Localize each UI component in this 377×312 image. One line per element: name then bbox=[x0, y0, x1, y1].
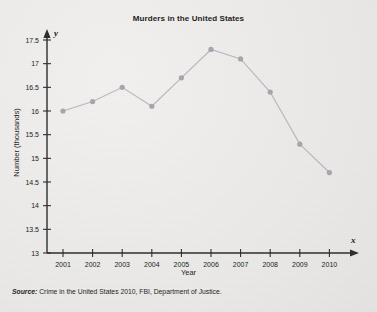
y-axis-tick-label: 15 bbox=[31, 155, 39, 162]
x-axis-tick-label: 2007 bbox=[233, 261, 249, 268]
data-point bbox=[90, 99, 95, 104]
line-chart-plot: y x 1313.51414.51515.51616.51717.5 20012… bbox=[0, 0, 377, 312]
y-axis-tick-label: 13.5 bbox=[25, 226, 39, 233]
data-point bbox=[268, 89, 273, 94]
y-axis-tick-label: 14.5 bbox=[25, 179, 39, 186]
x-axis-tick-labels: 2001200220032004200520062007200820092010 bbox=[55, 261, 337, 268]
x-axis-tick-label: 2009 bbox=[292, 261, 308, 268]
x-axis-tick-label: 2003 bbox=[114, 261, 130, 268]
y-axis-tick-label: 17 bbox=[31, 60, 39, 67]
y-axis-tick-label: 13 bbox=[31, 250, 39, 257]
source-note: Source: Crime in the United States 2010,… bbox=[12, 288, 222, 295]
x-axis-variable-label: x bbox=[350, 235, 356, 245]
source-text: Crime in the United States 2010, FBI, De… bbox=[39, 288, 221, 295]
source-label: Source: bbox=[12, 288, 37, 295]
data-point bbox=[60, 108, 65, 113]
x-axis-tick-label: 2005 bbox=[174, 261, 190, 268]
data-point bbox=[179, 75, 184, 80]
data-point bbox=[327, 170, 332, 175]
data-point bbox=[208, 47, 213, 52]
x-axis-tick-label: 2001 bbox=[55, 261, 71, 268]
x-axis-title: Year bbox=[0, 268, 377, 277]
y-axis-tick-label: 17.5 bbox=[25, 37, 39, 44]
y-axis-arrow-icon bbox=[43, 29, 50, 38]
data-point bbox=[297, 142, 302, 147]
chart-figure: Murders in the United States y x 1313.51… bbox=[0, 0, 377, 312]
data-point bbox=[149, 104, 154, 109]
y-axis-tick-label: 16.5 bbox=[25, 84, 39, 91]
x-axis-tick-label: 2010 bbox=[322, 261, 338, 268]
y-axis-tick-labels: 1313.51414.51515.51616.51717.5 bbox=[25, 37, 39, 257]
x-axis-tick-label: 2006 bbox=[203, 261, 219, 268]
data-series-line bbox=[63, 49, 329, 172]
data-series-markers bbox=[60, 47, 332, 175]
y-axis-tick-label: 16 bbox=[31, 108, 39, 115]
x-axis-tick-label: 2002 bbox=[85, 261, 101, 268]
y-axis-title: Number (thousands) bbox=[12, 83, 21, 203]
x-axis-tick-label: 2004 bbox=[144, 261, 160, 268]
x-axis-tick-label: 2008 bbox=[262, 261, 278, 268]
data-point bbox=[120, 85, 125, 90]
data-point bbox=[238, 56, 243, 61]
x-axis-arrow-icon bbox=[350, 249, 359, 256]
y-axis-tick-label: 14 bbox=[31, 202, 39, 209]
y-axis-variable-label: y bbox=[53, 28, 59, 38]
y-axis-tick-label: 15.5 bbox=[25, 131, 39, 138]
